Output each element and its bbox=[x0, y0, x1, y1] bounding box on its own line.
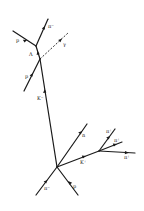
label-p-recoil: p bbox=[25, 73, 28, 80]
label-pi-minus-beam: π⁻ bbox=[44, 185, 50, 191]
track-p-recoil: p bbox=[24, 59, 40, 91]
label-pi-plus-3: π⁺ bbox=[124, 154, 130, 160]
track-p-decay: p bbox=[13, 31, 36, 46]
event-diagram: π⁻ p n K⁺ π⁺ π⁺ π⁺ K⁻ p bbox=[0, 0, 144, 211]
track-gamma: γ bbox=[40, 33, 68, 59]
track-pi-plus-2: π⁺ bbox=[99, 137, 122, 151]
track-pi-minus-decay: π⁻ bbox=[36, 19, 54, 46]
track-p-target: p bbox=[57, 167, 78, 195]
arrow-icon bbox=[23, 40, 27, 43]
track-pi-minus-beam: π⁻ bbox=[36, 167, 57, 195]
label-neutron: n bbox=[82, 132, 86, 138]
label-k-plus: K⁺ bbox=[80, 159, 87, 165]
track-pi-plus-3: π⁺ bbox=[99, 151, 135, 160]
label-p-target: p bbox=[73, 183, 76, 190]
track-lambda: Λ bbox=[28, 46, 40, 59]
arrow-icon bbox=[44, 180, 48, 184]
track-k-minus: K⁻ bbox=[37, 59, 57, 167]
label-pi-plus-1: π⁺ bbox=[106, 128, 112, 134]
label-gamma: γ bbox=[63, 41, 66, 48]
label-k-minus: K⁻ bbox=[37, 95, 44, 101]
label-pi-plus-2: π⁺ bbox=[114, 137, 120, 143]
label-lambda: Λ bbox=[28, 51, 33, 57]
label-p-decay: p bbox=[16, 37, 19, 44]
arrow-icon bbox=[43, 89, 46, 93]
arrow-icon bbox=[113, 144, 117, 147]
arrow-icon bbox=[106, 136, 110, 139]
label-pi-minus-decay: π⁻ bbox=[48, 23, 54, 29]
arrow-icon bbox=[30, 73, 33, 77]
